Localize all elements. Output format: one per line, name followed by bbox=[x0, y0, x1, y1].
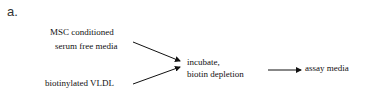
arrow-msc-to-process bbox=[133, 42, 180, 61]
diagram: a. MSC conditioned serum free media biot… bbox=[0, 0, 375, 100]
arrows-layer bbox=[0, 0, 375, 100]
arrow-vldl-to-process bbox=[133, 67, 180, 84]
